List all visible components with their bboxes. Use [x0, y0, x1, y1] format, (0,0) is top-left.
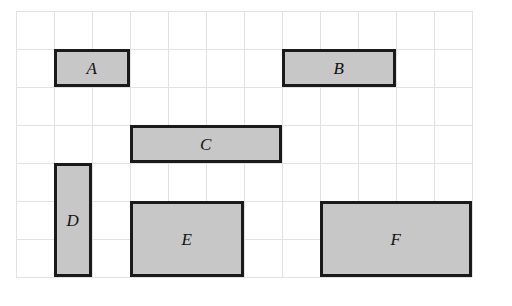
grid-line-horizontal [16, 87, 472, 88]
rectangle-label: D [67, 212, 80, 229]
grid-line-horizontal [16, 277, 472, 278]
grid-line-horizontal [16, 11, 472, 12]
rectangle-e: E [130, 201, 244, 277]
rectangle-b: B [282, 49, 396, 87]
grid-line-vertical [472, 11, 473, 277]
rectangle-c: C [130, 125, 282, 163]
rectangle-label: C [200, 136, 212, 153]
rectangle-label: A [87, 60, 98, 77]
figure-canvas: ABCDEF [0, 0, 512, 306]
rectangle-a: A [54, 49, 130, 87]
grid-line-vertical [16, 11, 17, 277]
rectangle-label: E [182, 231, 193, 248]
rectangle-label: B [334, 60, 345, 77]
rectangle-f: F [320, 201, 472, 277]
rectangle-d: D [54, 163, 92, 277]
rectangle-label: F [391, 231, 402, 248]
